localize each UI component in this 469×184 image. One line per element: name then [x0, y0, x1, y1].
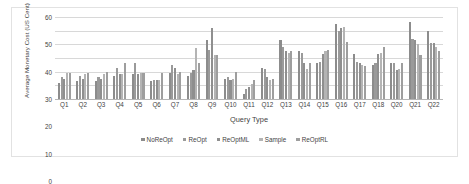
bar	[309, 63, 311, 99]
legend-label: NoReOpt	[147, 136, 173, 143]
bar-groups	[55, 17, 443, 99]
y-axis-tick-label: 60	[45, 14, 52, 21]
bar-group	[369, 17, 387, 99]
legend-label: Sample	[265, 136, 286, 143]
x-axis-tick-label: Q15	[314, 101, 332, 108]
y-axis-tick-label: 10	[45, 150, 52, 157]
y-axis-title: Average Monetary Cost (US Cent)	[23, 0, 30, 115]
bar	[346, 42, 348, 99]
x-axis-tick-label: Q18	[369, 101, 387, 108]
x-axis-tick-label: Q17	[351, 101, 369, 108]
bar-group	[240, 17, 258, 99]
chart-container: Average Monetary Cost (US Cent) 60504030…	[11, 7, 458, 157]
x-axis-tick-label: Q11	[240, 101, 258, 108]
chart-legend: NoReOptReOptReOptMLSampleReOptRL	[12, 136, 457, 143]
x-axis-tick-label: Q22	[424, 101, 442, 108]
legend-swatch-icon	[141, 138, 145, 142]
y-axis-tick-label: 40	[45, 68, 52, 75]
legend-item[interactable]: Sample	[259, 136, 286, 143]
bar	[364, 66, 366, 99]
x-axis-tick-label: Q20	[387, 101, 405, 108]
x-axis-tick-label: Q21	[406, 101, 424, 108]
bar	[198, 63, 200, 99]
x-axis-tick-label: Q5	[129, 101, 147, 108]
x-axis-title: Query Type	[55, 115, 443, 124]
bar	[179, 72, 181, 99]
x-axis-tick-label: Q10	[221, 101, 239, 108]
bar-group	[314, 17, 332, 99]
bar	[235, 72, 237, 99]
bar-group	[258, 17, 276, 99]
bar-group	[129, 17, 147, 99]
x-axis-tick-label: Q14	[295, 101, 313, 108]
legend-swatch-icon	[259, 138, 263, 142]
x-axis-tick-label: Q12	[258, 101, 276, 108]
bar	[216, 55, 218, 99]
legend-label: ReOpt	[188, 136, 206, 143]
x-axis-tick-labels: Q1Q2Q3Q4Q5Q6Q7Q8Q9Q10Q11Q12Q13Q14Q15Q16Q…	[55, 101, 443, 108]
legend-swatch-icon	[183, 138, 187, 142]
bar	[87, 73, 89, 99]
bar	[124, 63, 126, 99]
bar	[419, 55, 421, 99]
y-axis-tick-label: 30	[45, 96, 52, 103]
x-axis-tick-label: Q1	[55, 101, 73, 108]
x-axis-tick-label: Q2	[73, 101, 91, 108]
x-axis-tick-label: Q8	[184, 101, 202, 108]
plot-area: 6050403020100	[55, 17, 443, 99]
bar-group	[166, 17, 184, 99]
bar	[253, 80, 255, 99]
legend-item[interactable]: NoReOpt	[141, 136, 173, 143]
legend-label: ReOptRL	[302, 136, 328, 143]
bar	[142, 73, 144, 99]
bar	[327, 50, 329, 99]
bar	[401, 63, 403, 99]
bar	[272, 79, 274, 100]
bar-group	[332, 17, 350, 99]
bar	[161, 73, 163, 99]
bar-group	[147, 17, 165, 99]
x-axis-tick-label: Q3	[92, 101, 110, 108]
bar-group	[295, 17, 313, 99]
bar-group	[92, 17, 110, 99]
bar	[69, 73, 71, 99]
legend-swatch-icon	[217, 138, 221, 142]
bar-group	[424, 17, 442, 99]
legend-swatch-icon	[296, 138, 300, 142]
bar-group	[184, 17, 202, 99]
legend-item[interactable]: ReOptRL	[296, 136, 328, 143]
y-axis-tick-label: 20	[45, 123, 52, 130]
x-axis-tick-label: Q4	[110, 101, 128, 108]
bar-group	[406, 17, 424, 99]
bar	[438, 51, 440, 99]
x-axis-tick-label: Q6	[147, 101, 165, 108]
legend-item[interactable]: ReOptML	[217, 136, 250, 143]
bar	[106, 72, 108, 99]
x-axis-tick-label: Q7	[166, 101, 184, 108]
bar-group	[73, 17, 91, 99]
x-axis-tick-label: Q9	[203, 101, 221, 108]
bar	[383, 47, 385, 99]
bar-group	[221, 17, 239, 99]
x-axis-line: 0	[55, 99, 443, 100]
bar-group	[387, 17, 405, 99]
x-axis-tick-label: Q13	[277, 101, 295, 108]
bar-group	[351, 17, 369, 99]
bar-group	[203, 17, 221, 99]
bar-group	[110, 17, 128, 99]
x-axis-tick-label: Q16	[332, 101, 350, 108]
bar-group	[277, 17, 295, 99]
y-axis-tick-label: 50	[45, 41, 52, 48]
legend-item[interactable]: ReOpt	[183, 136, 207, 143]
bar	[290, 51, 292, 99]
legend-label: ReOptML	[222, 136, 249, 143]
bar-group	[55, 17, 73, 99]
